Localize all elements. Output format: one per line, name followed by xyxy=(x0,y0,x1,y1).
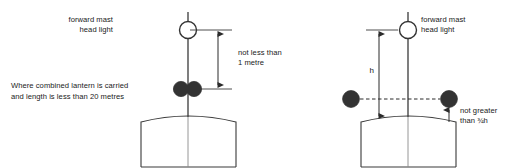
navigation-lights-diagram: forward mast head light not less than 1 … xyxy=(0,0,525,168)
left-diagram-group: forward mast head light not less than 1 … xyxy=(11,12,282,167)
ratio-label-line1: not greater xyxy=(460,106,498,115)
masthead-label-right-line1: forward mast xyxy=(421,15,466,24)
ratio-label-line2: than ¾h xyxy=(460,116,488,125)
lantern-label-line2: and length is less than 20 metres xyxy=(11,92,124,101)
sidelight-starboard-icon xyxy=(441,91,458,108)
height-dimension-label: h xyxy=(370,66,374,75)
masthead-label-right-line2: head light xyxy=(421,25,455,34)
dimension-label-left-line1: not less than xyxy=(238,48,282,57)
masthead-light-icon-right xyxy=(400,22,417,39)
sidelight-port-icon xyxy=(343,91,360,108)
lantern-label-line1: Where combined lantern is carried xyxy=(11,81,128,90)
combined-lantern-starboard-icon xyxy=(186,81,201,96)
masthead-label-left-line2: head light xyxy=(80,25,114,34)
hull-outline-left xyxy=(141,116,236,167)
dimension-label-left-line2: 1 metre xyxy=(238,58,264,67)
diagram-canvas: forward mast head light not less than 1 … xyxy=(0,0,525,168)
hull-outline-right xyxy=(361,116,456,167)
masthead-label-left-line1: forward mast xyxy=(69,15,114,24)
right-diagram-group: forward mast head light h not greater th… xyxy=(343,12,498,167)
